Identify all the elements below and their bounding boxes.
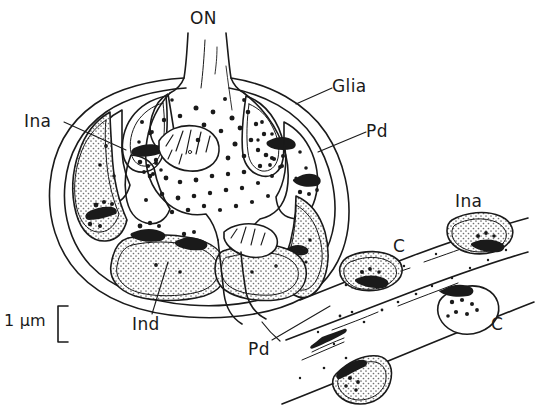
label-c-lower: C	[491, 316, 503, 333]
diagram-ink	[49, 33, 534, 404]
label-optic-nerve: ON	[190, 10, 217, 27]
label-scale-bar: 1 µm	[4, 313, 46, 329]
label-pd-upper: Pd	[366, 123, 388, 140]
leader-pd-upper	[318, 132, 366, 152]
leader-glia	[296, 88, 332, 104]
optic-nerve-stalk	[170, 33, 244, 110]
scale-bar-bracket	[58, 306, 68, 342]
label-c-upper: C	[393, 238, 405, 255]
label-ina-left: Ina	[24, 113, 51, 130]
label-glia: Glia	[332, 78, 367, 95]
figure-root: ON Glia Pd Ina Ina C C Ind Pd 1 µm	[0, 0, 558, 412]
ina-cell-left	[73, 112, 127, 241]
compartment-upper-right-a	[242, 96, 283, 176]
label-ina-right: Ina	[455, 193, 482, 210]
label-ind: Ind	[132, 316, 160, 333]
ind-cell-left	[111, 235, 227, 301]
synaptic-density-right-a	[264, 137, 296, 169]
label-pd-lower: Pd	[248, 341, 270, 358]
mitochondrion-upper	[159, 126, 219, 171]
